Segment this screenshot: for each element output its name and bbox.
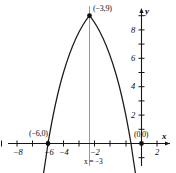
y-tick-label-8: 8	[131, 26, 135, 35]
origin-point-label: (0,0)	[134, 131, 148, 139]
x-axis-arrow	[165, 141, 170, 145]
parabola-plot	[0, 0, 176, 173]
x-intercept-left-marker	[46, 141, 51, 146]
axis-of-symmetry-label: x = −3	[84, 158, 103, 166]
y-tick-label-2: 2	[131, 111, 135, 120]
origin-point-marker	[139, 141, 144, 146]
y-tick-label-6: 6	[131, 54, 135, 63]
x-tick-label-minus8: −8	[13, 148, 23, 157]
graph-figure: (−3,9) (−6,0) (0,0) x = −3 x y −8 −6 −4 …	[0, 0, 176, 173]
vertex-point-label: (−3,9)	[93, 5, 112, 13]
x-intercept-left-label: (−6,0)	[29, 130, 48, 138]
x-tick-label-2: 2	[155, 148, 159, 157]
y-tick-label-4: 4	[131, 82, 135, 91]
x-tick-label-minus2: −2	[90, 148, 100, 157]
x-axis-label: x	[162, 132, 166, 141]
y-axis-arrow	[139, 8, 143, 13]
x-tick-label-minus6: −6	[44, 148, 54, 157]
y-axis-label: y	[145, 7, 149, 16]
x-tick-label-minus4: −4	[59, 148, 69, 157]
vertex-point-marker	[87, 13, 92, 18]
